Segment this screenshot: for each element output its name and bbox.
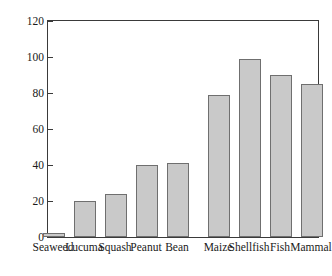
y-axis-tick-label: 100 (27, 51, 44, 63)
y-axis-tick-mark (48, 21, 53, 22)
plot-area: 020406080100120 (48, 21, 318, 237)
bar (167, 163, 189, 237)
x-axis-category-label: Bean (165, 241, 189, 253)
bar (239, 59, 261, 237)
y-axis-tick-mark (48, 129, 53, 130)
bar (301, 84, 323, 237)
bar (270, 75, 292, 237)
y-axis-tick-mark (48, 201, 53, 202)
bar (136, 165, 158, 237)
y-axis-tick-label: 40 (33, 159, 45, 171)
x-axis-category-label: Fish (270, 241, 290, 253)
x-axis-category-label: Squash (98, 241, 131, 253)
plot-frame: 020406080100120 (47, 20, 319, 238)
x-axis-category-label: Mammal (290, 241, 332, 253)
y-axis-tick-mark (48, 93, 53, 94)
y-axis-tick-label: 60 (33, 123, 45, 135)
y-axis-tick-mark (48, 57, 53, 58)
x-axis-category-label: Shellfish (229, 241, 270, 253)
y-axis-tick-label: 80 (33, 87, 45, 99)
y-axis-tick-mark (48, 165, 53, 166)
y-axis-title: Percent of soil samples containing food … (0, 0, 22, 22)
y-axis-tick-mark (48, 237, 53, 238)
bar (74, 201, 96, 237)
bar (43, 233, 65, 237)
y-axis-tick-label: 120 (27, 15, 44, 27)
bar (105, 194, 127, 237)
bar (208, 95, 230, 237)
y-axis-tick-label: 20 (33, 195, 45, 207)
x-axis-category-label: Lucuma (65, 241, 103, 253)
x-axis-category-label: Peanut (130, 241, 161, 253)
